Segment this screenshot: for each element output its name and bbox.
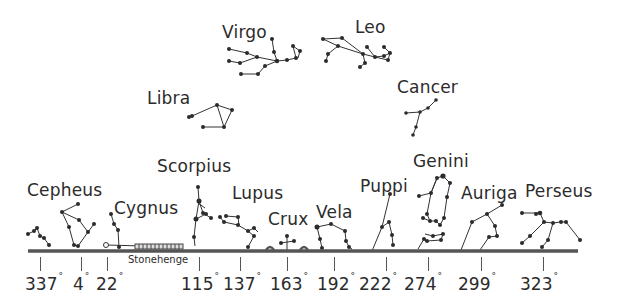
- tick-323: [543, 257, 544, 271]
- azimuth-222: 222°: [359, 274, 397, 294]
- vela-figure: [317, 224, 352, 249]
- tick-137: [240, 257, 241, 271]
- azimuth-274: 274°: [404, 274, 442, 294]
- tick-115: [199, 257, 200, 271]
- star-chart: [0, 0, 617, 306]
- perseus-figure: [522, 212, 580, 247]
- label-leo: Leo: [355, 17, 386, 37]
- virgo-figure: [229, 39, 300, 74]
- label-puppis: Puppi: [360, 176, 408, 196]
- label-libra: Libra: [147, 88, 190, 108]
- scorpius-figure: [194, 187, 211, 246]
- tick-4: [81, 257, 82, 271]
- stonehenge-label: Stonehenge: [128, 254, 188, 265]
- azimuth-4: 4°: [73, 274, 89, 294]
- azimuth-115: 115°: [181, 274, 219, 294]
- label-virgo: Virgo: [222, 22, 267, 42]
- label-cygnus: Cygnus: [114, 198, 178, 218]
- tick-337: [40, 257, 41, 271]
- label-auriga: Auriga: [461, 183, 518, 203]
- label-cepheus: Cepheus: [27, 180, 102, 200]
- tick-274: [428, 257, 429, 271]
- label-gemini: Genini: [413, 151, 469, 171]
- label-cancer: Cancer: [397, 77, 458, 97]
- label-crux: Crux: [268, 209, 309, 229]
- azimuth-22: 22°: [96, 274, 123, 294]
- azimuth-337: 337°: [25, 274, 63, 294]
- tick-163: [287, 257, 288, 271]
- lupus-figure: [220, 216, 258, 247]
- azimuth-163: 163°: [270, 274, 308, 294]
- azimuth-323: 323°: [520, 274, 558, 294]
- cancer-figure: [406, 100, 436, 135]
- tick-299: [481, 257, 482, 271]
- label-perseus: Perseus: [525, 181, 592, 201]
- stonehenge-stones: [135, 244, 183, 249]
- azimuth-192: 192°: [317, 274, 355, 294]
- label-lupus: Lupus: [232, 183, 283, 203]
- libra-figure: [189, 105, 232, 127]
- azimuth-137: 137°: [223, 274, 261, 294]
- label-scorpius: Scorpius: [157, 156, 231, 176]
- tick-222: [386, 257, 387, 271]
- azimuth-299: 299°: [458, 274, 496, 294]
- tick-22: [107, 257, 108, 271]
- label-vela: Vela: [316, 202, 353, 222]
- leo-figure: [323, 38, 390, 67]
- tick-192: [334, 257, 335, 271]
